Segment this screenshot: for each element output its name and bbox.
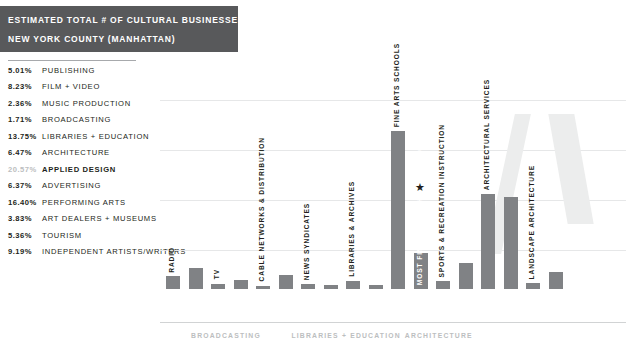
plot-area: RADIO126210TV5588CABLE NETWORKS & DISTRI… bbox=[160, 90, 626, 289]
bar bbox=[391, 131, 405, 289]
legend-item-label: ADVERTISING bbox=[42, 181, 101, 190]
bar-label: RADIO bbox=[165, 247, 179, 273]
group-label: BROADCASTING bbox=[191, 332, 261, 339]
bar bbox=[526, 283, 540, 289]
group-label: LIBRARIES + EDUCATION bbox=[291, 332, 400, 339]
bar-label: LIBRARIES & ARCHIVES bbox=[345, 181, 359, 277]
legend-item-percent: 5.01% bbox=[8, 66, 42, 75]
header-total-line: ESTIMATED TOTAL # OF CULTURAL BUSINESSES… bbox=[8, 15, 278, 25]
bar bbox=[369, 285, 383, 289]
star-icon: ★ bbox=[415, 182, 425, 193]
bar-label: TV bbox=[210, 269, 224, 279]
header-banner: ESTIMATED TOTAL # OF CULTURAL BUSINESSES… bbox=[0, 6, 238, 52]
legend-item-label: PUBLISHING bbox=[42, 66, 95, 75]
legend-item-label: PERFORMING ARTS bbox=[42, 198, 126, 207]
bar-label: LANDSCAPE ARCHITECTURE bbox=[525, 165, 539, 279]
legend-item-percent: 6.47% bbox=[8, 148, 42, 157]
legend-divider bbox=[8, 60, 136, 61]
legend-item-percent: 3.83% bbox=[8, 214, 42, 223]
header-total-value: 15,630 bbox=[248, 15, 279, 25]
legend-item-percent: 13.75% bbox=[8, 132, 42, 141]
legend-item-percent: 20.57% bbox=[8, 165, 42, 174]
bar-label: ARCHITECTURAL SERVICES bbox=[480, 79, 494, 190]
bar bbox=[166, 276, 180, 289]
group-label: ARCHITECTURE bbox=[405, 332, 473, 339]
legend-item-percent: 8.23% bbox=[8, 82, 42, 91]
legend-item-percent: 9.19% bbox=[8, 247, 42, 256]
bar bbox=[279, 275, 293, 289]
legend-item-percent: 16.40% bbox=[8, 198, 42, 207]
bar-label: MOST FINE ARTS SCHOOLS IN NYC bbox=[413, 145, 427, 285]
legend-item-label: BROADCASTING bbox=[42, 115, 111, 124]
bar bbox=[436, 281, 450, 289]
header-county-line: NEW YORK COUNTY (MANHATTAN) bbox=[8, 34, 175, 44]
legend-item-percent: 1.71% bbox=[8, 115, 42, 124]
bar-label: FINE ARTS SCHOOLS bbox=[390, 43, 404, 127]
legend-item-label: ART DEALERS + MUSEUMS bbox=[42, 214, 157, 223]
bar bbox=[459, 263, 473, 289]
bar bbox=[211, 284, 225, 289]
bar-label: NEWS SYNDICATES bbox=[300, 203, 314, 280]
bar bbox=[301, 284, 315, 289]
legend-item-label: APPLIED DESIGN bbox=[42, 165, 116, 174]
legend-item-percent: 2.36% bbox=[8, 99, 42, 108]
bar bbox=[234, 280, 248, 289]
legend-item-percent: 5.36% bbox=[8, 231, 42, 240]
bar-label: CABLE NETWORKS & DISTRIBUTION bbox=[255, 137, 269, 281]
legend-item-label: TOURISM bbox=[42, 231, 82, 240]
bar bbox=[549, 272, 563, 289]
legend-item-percent: 6.37% bbox=[8, 181, 42, 190]
bar bbox=[481, 194, 495, 289]
bar-chart: RADIO126210TV5588CABLE NETWORKS & DISTRI… bbox=[160, 56, 626, 345]
x-axis-line bbox=[160, 322, 626, 323]
bar bbox=[256, 286, 270, 289]
bar-label: SPORTS & RECREATION INSTRUCTION bbox=[435, 124, 449, 277]
legend-item-label: MUSIC PRODUCTION bbox=[42, 99, 131, 108]
legend-item-label: ARCHITECTURE bbox=[42, 148, 110, 157]
bar bbox=[504, 197, 518, 289]
legend-item-label: LIBRARIES + EDUCATION bbox=[42, 132, 149, 141]
bar bbox=[346, 281, 360, 289]
legend-item-label: FILM + VIDEO bbox=[42, 82, 100, 91]
header-total-label: ESTIMATED TOTAL # OF CULTURAL BUSINESSES bbox=[8, 15, 245, 25]
bar bbox=[189, 268, 203, 289]
bar bbox=[324, 285, 338, 289]
